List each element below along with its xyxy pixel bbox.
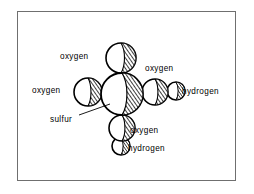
screenshot-root: oxygen oxygen oxygen hydrogen sulfur oxy… bbox=[0, 0, 254, 194]
label-oxygen-bottom: oxygen bbox=[130, 127, 159, 135]
label-oxygen-left: oxygen bbox=[32, 87, 61, 95]
label-oxygen-right: oxygen bbox=[145, 65, 174, 73]
atom-oxygen-right bbox=[142, 79, 168, 105]
molecular-model-diagram bbox=[0, 0, 254, 194]
label-sulfur: sulfur bbox=[50, 116, 72, 124]
label-hydrogen-right: hydrogen bbox=[182, 88, 219, 96]
label-oxygen-top: oxygen bbox=[60, 53, 89, 61]
atom-sulfur bbox=[101, 73, 143, 115]
atom-oxygen-top bbox=[106, 43, 136, 73]
atom-oxygen-left bbox=[74, 78, 102, 106]
label-hydrogen-bottom: hydrogen bbox=[128, 145, 165, 153]
